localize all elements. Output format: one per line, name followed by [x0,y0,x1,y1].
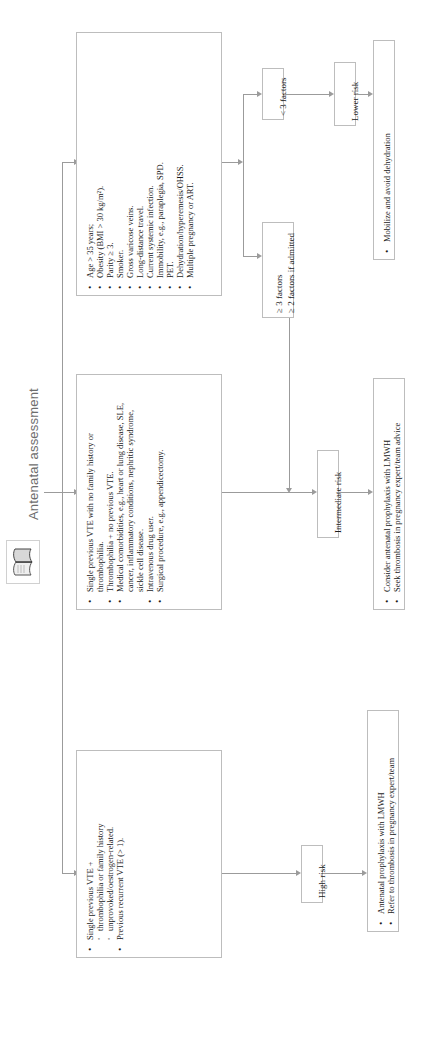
intermediate-risk-label: Intermediate risk [333,472,343,533]
connector-to-risk-factors [62,162,74,163]
list-item: Immobility, e.g., paraplegia, SPD. [155,162,165,289]
high-risk-action-box: Antenatal prophylaxis with LMWHRefer to … [367,710,399,932]
page-title: Antenatal assessment [26,388,41,520]
less-than-3-factors-box: < 3 factors [262,68,284,120]
intermediate-risk-criteria-list: Single previous VTE with no family histo… [85,403,165,603]
intermediate-risk-criteria-box: Single previous VTE with no family histo… [76,374,222,610]
connector-lt3-to-lowerrisk [284,94,329,95]
connector-to-ge3 [243,256,257,257]
list-item: Parity ≥ 3. [105,162,115,289]
list-item: Medical comorbidities, e.g., heart or lu… [115,403,125,603]
high-risk-criteria-list: Single previous VTE +thrombophilia or fa… [85,824,125,951]
list-item: thrombophilia. [95,403,105,603]
connector-intermediate-criteria-out [222,492,312,493]
open-book-icon-frame [6,540,40,584]
high-risk-criteria-list-wrap: Single previous VTE +thrombophilia or fa… [85,824,125,951]
list-item: Seek thrombosis in pregnancy expert/team… [392,423,402,603]
connector-root-horizontal [44,492,62,493]
intermediate-risk-action-list: Consider antenatal prophylaxis with LMWH… [382,423,402,603]
list-item: unprovoked/oestrogen-related. [105,824,115,951]
connector-intermediate-to-action [339,492,368,493]
list-item: Mobilize and avoid dehydration [382,133,392,253]
list-item: Single previous VTE + [85,824,95,951]
list-item: Gross varicose veins. [125,162,135,289]
intermediate-risk-box: Intermediate risk [317,450,339,538]
connector-split-vertical [243,94,244,256]
connector-ge3-to-intermediate-vertical [289,318,290,488]
three-or-more-factors-box: ≥ 3 factors ≥ 2 factors if admitted [262,222,294,318]
connector-lowerrisk-to-action [356,94,368,95]
list-item: Thrombophilia + no previous VTE. [105,403,115,603]
lower-risk-action-list-wrap: Mobilize and avoid dehydration [382,133,392,253]
list-item: Single previous VTE with no family histo… [85,403,95,603]
risk-factors-box: Age > 35 years;Obesity (BMI > 30 kg/m²).… [76,32,222,296]
list-item: Smoker. [115,162,125,289]
list-item: Surgical procedure, e.g., appendicectomy… [155,403,165,603]
list-item: Long-distance travel. [135,162,145,289]
list-item: PET. [165,162,175,289]
intermediate-action-list-wrap: Consider antenatal prophylaxis with LMWH… [382,423,402,603]
list-item: Intravenous drug user. [145,403,155,603]
list-item: Previous recurrent VTE (> 1). [115,824,125,951]
lt3-label: < 3 factors [278,77,288,116]
risk-factors-list-wrap: Age > 35 years;Obesity (BMI > 30 kg/m²).… [85,162,195,289]
list-item: Dehydration/hyperemesis/OHSS. [175,162,185,289]
connector-to-lt3 [243,94,257,95]
list-item: Multiple pregnancy or ART. [185,162,195,289]
list-item: Current systemic infection. [145,162,155,289]
lower-risk-action-list: Mobilize and avoid dehydration [382,133,392,253]
list-item: Age > 35 years; [85,162,95,289]
high-risk-criteria-box: Single previous VTE +thrombophilia or fa… [76,750,222,958]
lower-risk-box: Lower risk [334,62,356,126]
open-book-icon [11,547,35,577]
list-item: Obesity (BMI > 30 kg/m²). [95,162,105,289]
intermediate-risk-action-box: Consider antenatal prophylaxis with LMWH… [373,378,405,610]
intermediate-criteria-list-wrap: Single previous VTE with no family histo… [85,403,165,603]
list-item: Antenatal prophylaxis with LMWH [376,758,386,925]
high-risk-action-list-wrap: Antenatal prophylaxis with LMWHRefer to … [376,758,396,925]
connector-highcriteria-to-highrisk [222,873,296,874]
lower-risk-label: Lower risk [350,82,360,121]
list-item: cancer, inflammatory conditions, nephrit… [125,403,135,603]
risk-factors-list: Age > 35 years;Obesity (BMI > 30 kg/m²).… [85,162,195,289]
list-item: sickle cell disease. [135,403,145,603]
ge3-label-line1: ≥ 3 factors [274,275,284,313]
connector-riskfactors-out [222,162,238,163]
high-risk-label: High risk [317,864,327,898]
ge3-label-line2: ≥ 2 factors if admitted [286,233,296,313]
list-item: Consider antenatal prophylaxis with LMWH [382,423,392,603]
list-item: Refer to thrombosis in pregnancy expert/… [386,758,396,925]
connector-highrisk-to-action [323,873,362,874]
lower-risk-action-box: Mobilize and avoid dehydration [373,40,395,260]
high-risk-box: High risk [301,845,323,903]
high-risk-action-list: Antenatal prophylaxis with LMWHRefer to … [376,758,396,925]
list-item: thrombophilia or family history [95,824,105,951]
connector-trunk-vertical [62,162,63,874]
connector-to-high-risk-criteria [62,873,74,874]
connector-to-intermediate-criteria [62,492,74,493]
